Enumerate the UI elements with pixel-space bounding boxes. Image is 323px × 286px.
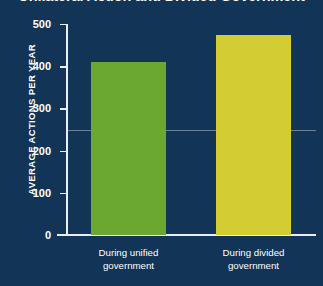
y-tick-mark: 200 (60, 151, 66, 152)
bar-2 (216, 35, 291, 235)
x-tick-label-line: government (191, 259, 316, 272)
y-tick-label: 200 (33, 145, 51, 157)
x-tick-label-2: During dividedgovernment (191, 235, 316, 272)
bar-1 (91, 62, 166, 235)
y-tick-label: 0 (45, 229, 51, 241)
x-tick-label-line: During divided (191, 246, 316, 259)
plot-area: 5004003002001000 During unifiedgovernmen… (66, 24, 316, 235)
y-tick-label: 100 (33, 187, 51, 199)
y-tick-label: 400 (33, 60, 51, 72)
y-tick-mark: 400 (60, 66, 66, 67)
y-tick-label: 500 (33, 18, 51, 30)
chart-title: Unilateral Action and Divided Government (0, 0, 323, 4)
y-tick-mark: 300 (60, 108, 66, 109)
y-tick-mark: 500 (60, 24, 66, 25)
x-tick-label-1: During unifiedgovernment (66, 235, 191, 272)
x-tick-label-line: government (66, 259, 191, 272)
chart-figure: Unilateral Action and Divided Government… (0, 0, 323, 286)
y-tick-mark: 100 (60, 193, 66, 194)
y-tick-label: 300 (33, 102, 51, 114)
x-tick-label-line: During unified (66, 246, 191, 259)
